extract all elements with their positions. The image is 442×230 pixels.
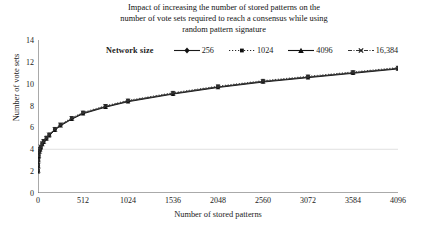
series-line xyxy=(38,68,398,171)
x-tick-label: 512 xyxy=(77,196,89,205)
series-4096 xyxy=(38,67,398,174)
chart-figure: Impact of increasing the number of store… xyxy=(0,0,442,230)
y-axis-title: Number of vote sets xyxy=(12,18,21,158)
x-tick-label: 3072 xyxy=(300,196,316,205)
x-tick-label: 4096 xyxy=(390,196,406,205)
x-tick-label: 2560 xyxy=(255,196,271,205)
series-1024 xyxy=(38,66,398,172)
chart-title-line-1: Impact of increasing the number of store… xyxy=(66,2,382,13)
y-tick-label: 0 xyxy=(8,189,34,198)
x-tick-label: 2048 xyxy=(210,196,226,205)
chart-title-line-3: random pattern signature xyxy=(66,24,382,35)
x-tick-label: 1024 xyxy=(120,196,136,205)
series-256 xyxy=(38,66,398,173)
x-tick-label: 0 xyxy=(36,196,40,205)
x-tick-label: 3584 xyxy=(345,196,361,205)
x-axis-tick-labels: 05121024153620482560307235844096 xyxy=(38,196,398,208)
series-line xyxy=(38,68,398,171)
chart-title: Impact of increasing the number of store… xyxy=(66,2,382,36)
x-axis-title: Number of stored patterns xyxy=(38,210,398,219)
x-tick-label: 1536 xyxy=(165,196,181,205)
chart-plot-svg xyxy=(38,40,398,193)
y-tick-label: 2 xyxy=(8,167,34,176)
series-16384 xyxy=(38,66,398,173)
chart-title-line-2: number of vote sets required to reach a … xyxy=(66,13,382,24)
plot-area xyxy=(38,40,398,193)
series-line xyxy=(38,68,398,170)
